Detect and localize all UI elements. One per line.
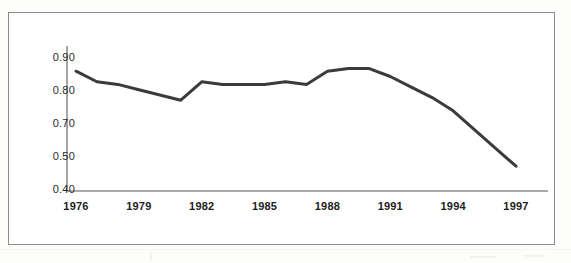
x-tick-label: 1994 [441,201,466,212]
scanned-page: 0.900.800.700.500.40 1976197919821985198… [0,0,571,263]
x-tick-label: 1985 [252,201,277,212]
scan-artifact-mark [150,252,152,261]
x-tick-label: 1988 [315,201,340,212]
x-tick-label: 1982 [189,201,214,212]
x-tick-label: 1979 [126,201,151,212]
x-axis-tick-labels: 19761979198219851988199119941997 [9,13,556,246]
chart-frame: 0.900.800.700.500.40 1976197919821985198… [8,12,555,245]
scan-artifact-mark [525,255,545,257]
x-tick-label: 1991 [378,201,403,212]
x-tick-label: 1997 [503,201,528,212]
x-tick-label: 1976 [63,201,88,212]
scan-artifact-mark [470,256,496,258]
scan-artifact-baseline [0,249,571,250]
